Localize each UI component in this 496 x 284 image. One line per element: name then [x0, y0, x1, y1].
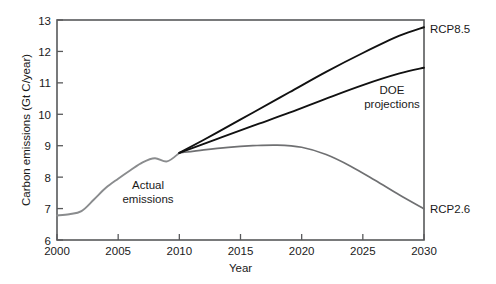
y-tick-label-12: 12: [38, 46, 51, 58]
annotation-actual-line2: emissions: [122, 193, 173, 205]
series-line-doe-projections: [179, 68, 424, 153]
x-tick-label-2005: 2005: [105, 245, 131, 257]
annotation-doe-projections: DOE projections: [364, 84, 420, 110]
x-tick-label-2010: 2010: [167, 245, 193, 257]
annotation-rcp26: RCP2.6: [430, 203, 470, 215]
x-tickmarks: [57, 234, 424, 240]
y-axis-title: Carbon emissions (Gt C/year): [20, 54, 32, 206]
x-tick-label-2030: 2030: [411, 245, 437, 257]
y-tick-label-11: 11: [39, 77, 51, 89]
x-tick-label-2025: 2025: [350, 245, 376, 257]
x-tick-labels: 2000 2005 2010 2015 2020 2025 2030: [44, 245, 437, 257]
annotation-rcp85: RCP8.5: [430, 23, 470, 35]
y-tick-label-13: 13: [38, 15, 51, 27]
annotation-actual-emissions: Actual emissions: [122, 179, 173, 205]
series-line-rcp26: [179, 145, 424, 209]
y-tick-label-8: 8: [45, 172, 51, 184]
y-tick-label-7: 7: [45, 203, 51, 215]
x-axis-title: Year: [229, 262, 252, 274]
annotation-actual-line1: Actual: [132, 179, 164, 191]
chart-figure: 13 12 11 10 9 8 7 6 2000 2005 2010 2015 …: [0, 0, 496, 284]
x-tick-label-2015: 2015: [228, 245, 254, 257]
y-tick-label-10: 10: [38, 109, 51, 121]
annotation-doe-line2: projections: [364, 98, 420, 110]
y-tickmarks: [57, 20, 63, 240]
x-tick-label-2020: 2020: [289, 245, 315, 257]
emissions-line-chart: 13 12 11 10 9 8 7 6 2000 2005 2010 2015 …: [0, 0, 496, 284]
x-tick-label-2000: 2000: [44, 245, 70, 257]
annotation-doe-line1: DOE: [380, 84, 405, 96]
y-tick-label-9: 9: [45, 140, 51, 152]
y-tick-labels: 13 12 11 10 9 8 7 6: [38, 15, 51, 247]
